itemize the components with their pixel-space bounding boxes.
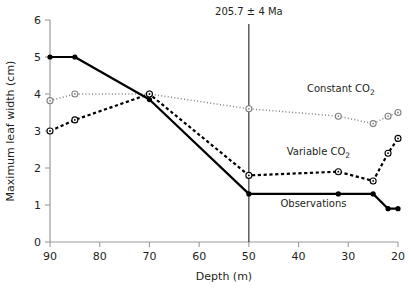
series-observations [47, 54, 400, 211]
x-tick-label: 50 [242, 250, 256, 263]
data-point-center [387, 115, 389, 117]
series-inline-labels: Constant CO2Variable CO2Observations [280, 83, 375, 209]
series-layer [47, 54, 401, 211]
data-point-center [337, 171, 339, 173]
x-tick-label: 90 [43, 250, 57, 263]
data-point [385, 206, 390, 211]
age-marker-label: 205.7 ± 4 Ma [215, 6, 283, 17]
data-point-center [397, 138, 399, 140]
x-tick-label: 70 [142, 250, 156, 263]
series-constant-co2 [47, 91, 401, 127]
data-point [395, 206, 400, 211]
data-point-center [74, 119, 76, 121]
data-point-center [387, 152, 389, 154]
series-line [50, 57, 398, 209]
x-tick-label: 30 [341, 250, 355, 263]
series-line [50, 94, 398, 181]
y-tick-label: 6 [34, 14, 41, 27]
data-point [147, 97, 152, 102]
data-point-center [372, 123, 374, 125]
y-tick-label: 0 [34, 236, 41, 249]
data-point [336, 191, 341, 196]
data-point-center [149, 93, 151, 95]
data-point-center [397, 112, 399, 114]
x-tick-label: 80 [93, 250, 107, 263]
x-axis-ticks: 9080706050403020 [43, 242, 405, 263]
y-tick-label: 1 [34, 199, 41, 212]
data-point [47, 54, 52, 59]
leaf-width-depth-chart: 0123456 9080706050403020 205.7 ± 4 Ma Co… [0, 0, 411, 290]
data-point [72, 54, 77, 59]
data-point-center [372, 180, 374, 182]
data-point-center [74, 93, 76, 95]
y-tick-label: 5 [34, 51, 41, 64]
y-axis-title: Maximum leaf width (cm) [4, 61, 17, 202]
data-point-center [248, 108, 250, 110]
x-tick-label: 20 [391, 250, 405, 263]
y-tick-label: 4 [34, 88, 41, 101]
data-point-center [248, 175, 250, 177]
series-label-constant-co2: Constant CO2 [307, 83, 375, 97]
x-tick-label: 40 [292, 250, 306, 263]
x-axis-title: Depth (m) [196, 270, 252, 283]
data-point-center [337, 115, 339, 117]
data-point-center [49, 130, 51, 132]
series-label-subscript: 2 [345, 151, 350, 160]
data-point [371, 191, 376, 196]
data-point-center [49, 100, 51, 102]
series-label-variable-co2: Variable CO2 [287, 146, 351, 160]
y-tick-label: 3 [34, 125, 41, 138]
x-tick-label: 60 [192, 250, 206, 263]
data-point [246, 191, 251, 196]
age-marker-annotation: 205.7 ± 4 Ma [215, 6, 283, 242]
y-tick-label: 2 [34, 162, 41, 175]
series-label-observations: Observations [280, 198, 346, 209]
series-label-subscript: 2 [370, 88, 375, 97]
chart-container: 0123456 9080706050403020 205.7 ± 4 Ma Co… [0, 0, 411, 290]
series-line [50, 94, 398, 124]
